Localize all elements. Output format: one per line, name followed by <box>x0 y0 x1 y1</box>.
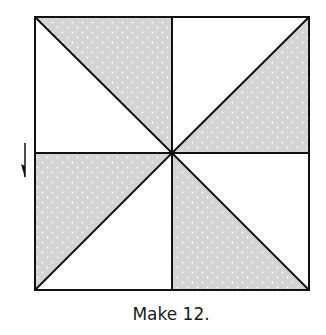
caption: Make 12. <box>0 304 326 324</box>
down-arrow-icon <box>21 143 25 178</box>
pinwheel-block-diagram <box>0 0 326 300</box>
